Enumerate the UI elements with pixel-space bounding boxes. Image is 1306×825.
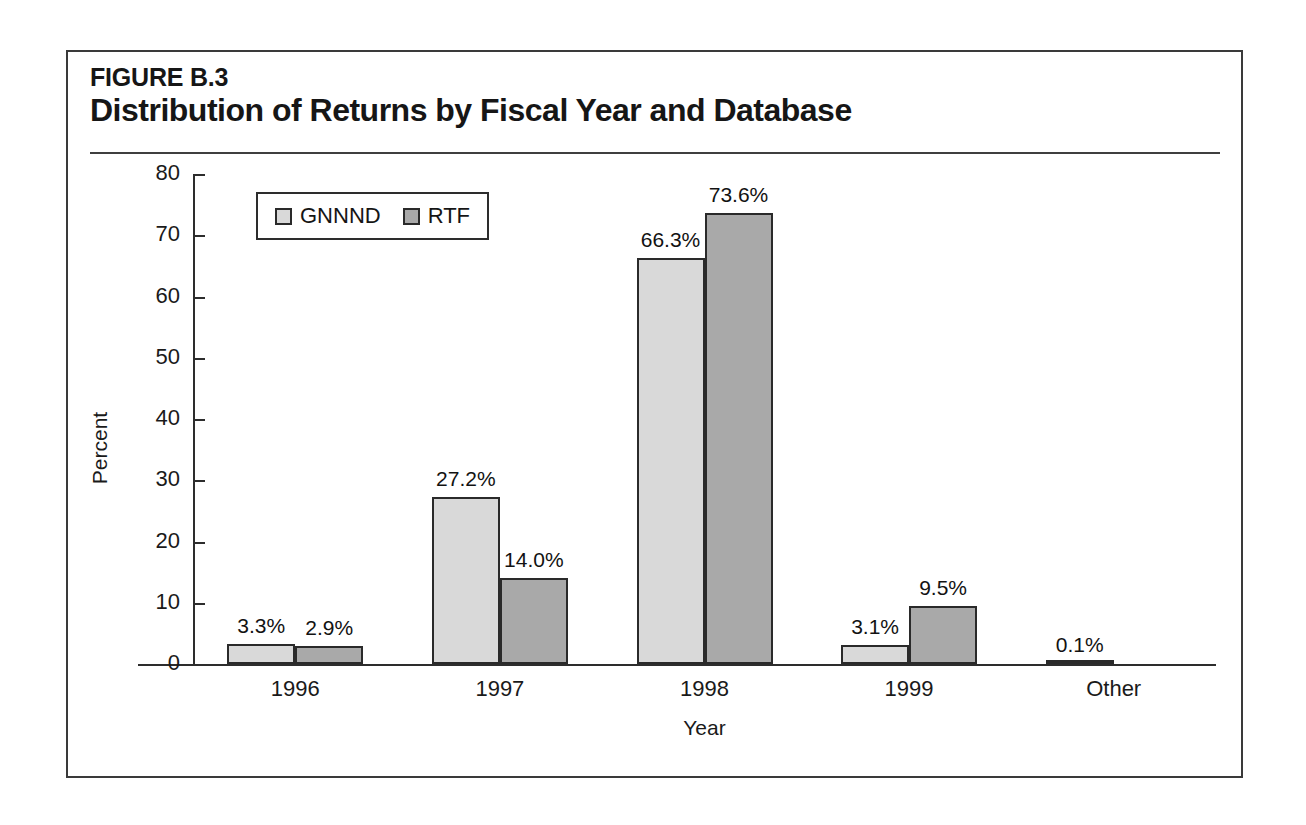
chart-plot-area: Percent 01020304050607080 19961997199819… — [68, 164, 1245, 774]
bar-value-label: 2.9% — [281, 616, 377, 640]
bar-group — [432, 174, 568, 664]
y-tick-mark — [194, 664, 205, 666]
legend-swatch-icon — [403, 208, 420, 225]
bar-rtf-1997 — [500, 578, 568, 664]
bar-group — [227, 174, 363, 664]
bar-value-label: 73.6% — [691, 183, 787, 207]
y-tick-label: 40 — [156, 405, 180, 431]
legend-label: RTF — [428, 203, 470, 229]
figure-number: FIGURE B.3 — [90, 64, 1210, 90]
bar-rtf-1996 — [295, 646, 363, 664]
legend-swatch-icon — [275, 208, 292, 225]
bar-value-label: 3.1% — [827, 615, 923, 639]
page-title: Distribution of Returns by Fiscal Year a… — [90, 93, 1210, 128]
title-divider — [90, 152, 1220, 154]
bar-value-label: 14.0% — [486, 548, 582, 572]
x-tick-label: 1996 — [193, 676, 398, 702]
bar-gnnnd-1999 — [841, 645, 909, 664]
bar-gnnnd-1997 — [432, 497, 500, 664]
bar-value-label: 27.2% — [418, 467, 514, 491]
x-tick-label: 1997 — [398, 676, 603, 702]
bar-value-label: 0.1% — [1032, 633, 1128, 657]
y-tick-label: 80 — [156, 160, 180, 186]
x-tick-label: 1998 — [602, 676, 807, 702]
bar-rtf-1998 — [705, 213, 773, 664]
y-axis-title: Percent — [88, 358, 112, 538]
x-tick-label: Other — [1011, 676, 1216, 702]
legend-label: GNNND — [300, 203, 381, 229]
bar-gnnnd-1998 — [637, 258, 705, 664]
y-tick-label: 70 — [156, 221, 180, 247]
bar-group — [1046, 174, 1182, 664]
legend-item-rtf: RTF — [403, 203, 470, 229]
bar-value-label: 9.5% — [895, 576, 991, 600]
y-tick-label: 20 — [156, 528, 180, 554]
chart-legend: GNNNDRTF — [256, 192, 489, 240]
y-tick-label: 60 — [156, 283, 180, 309]
figure-container: FIGURE B.3 Distribution of Returns by Fi… — [66, 50, 1243, 778]
y-tick-label: 10 — [156, 589, 180, 615]
bar-gnnnd-1996 — [227, 644, 295, 664]
x-tick-label: 1999 — [807, 676, 1012, 702]
x-axis-title: Year — [193, 716, 1216, 740]
bar-gnnnd-other — [1046, 660, 1114, 664]
x-axis-line — [138, 664, 1216, 666]
y-tick-label: 0 — [168, 650, 180, 676]
figure-header: FIGURE B.3 Distribution of Returns by Fi… — [90, 64, 1210, 128]
legend-item-gnnnd: GNNND — [275, 203, 381, 229]
y-tick-label: 30 — [156, 466, 180, 492]
bar-value-label: 66.3% — [623, 228, 719, 252]
y-tick-label: 50 — [156, 344, 180, 370]
